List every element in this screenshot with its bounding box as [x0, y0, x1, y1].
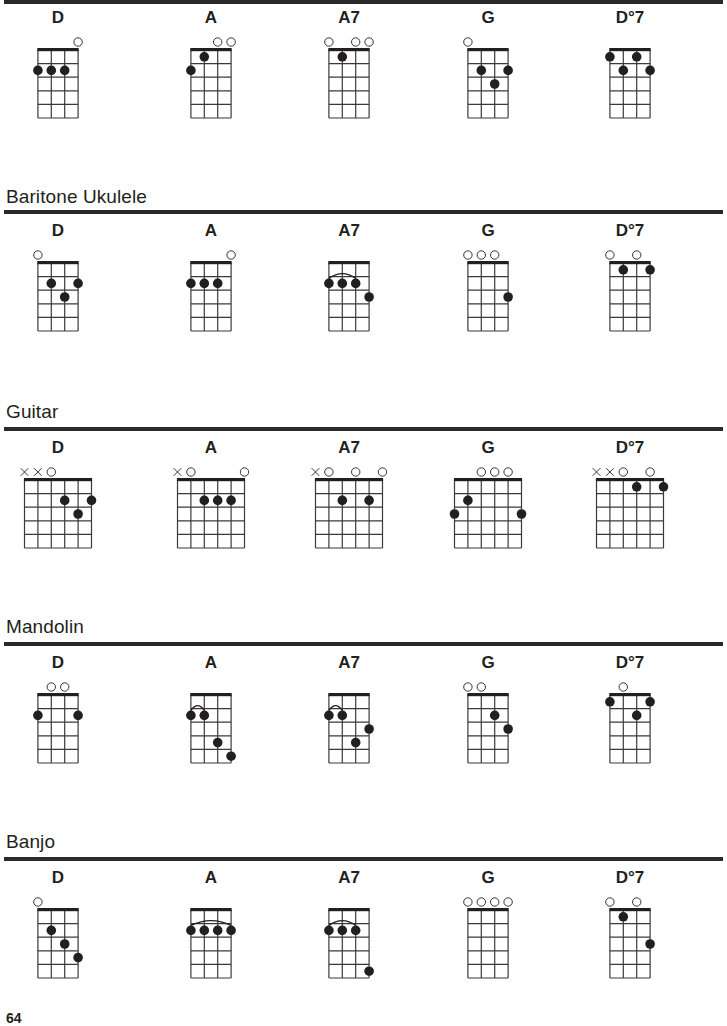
- finger-dot-icon: [226, 926, 236, 936]
- open-string-icon: [227, 38, 235, 46]
- finger-dot-icon: [632, 711, 642, 721]
- section-rule: [4, 210, 723, 214]
- nut: [315, 478, 383, 481]
- finger-dot-icon: [60, 292, 70, 302]
- open-string-icon: [477, 898, 485, 906]
- muted-string-icon: [34, 468, 42, 476]
- finger-dot-icon: [503, 66, 513, 76]
- open-string-icon: [214, 38, 222, 46]
- finger-dot-icon: [73, 711, 83, 721]
- finger-dot-icon: [73, 953, 83, 963]
- chord-diagram: [3, 221, 113, 331]
- nut: [190, 261, 231, 264]
- open-string-icon: [477, 468, 485, 476]
- finger-dot-icon: [338, 711, 348, 721]
- finger-dot-icon: [200, 711, 210, 721]
- finger-dot-icon: [60, 496, 70, 506]
- finger-dot-icon: [47, 926, 57, 936]
- finger-dot-icon: [338, 279, 348, 289]
- nut: [190, 48, 231, 51]
- muted-string-icon: [606, 468, 614, 476]
- finger-dot-icon: [213, 279, 223, 289]
- finger-dot-icon: [605, 697, 615, 707]
- finger-dot-icon: [186, 711, 196, 721]
- finger-dot-icon: [186, 279, 196, 289]
- nut: [328, 48, 369, 51]
- open-string-icon: [74, 38, 82, 46]
- muted-string-icon: [174, 468, 182, 476]
- chord-diagram: [156, 438, 266, 548]
- open-string-icon: [34, 251, 42, 259]
- chord-diagram: [3, 438, 113, 548]
- nut: [467, 908, 508, 911]
- open-string-icon: [378, 468, 386, 476]
- chord-diagram: [156, 8, 266, 118]
- finger-dot-icon: [186, 926, 196, 936]
- nut: [37, 48, 78, 51]
- finger-dot-icon: [645, 265, 655, 275]
- finger-dot-icon: [364, 966, 374, 976]
- finger-dot-icon: [645, 697, 655, 707]
- open-string-icon: [633, 898, 641, 906]
- nut: [37, 693, 78, 696]
- open-string-icon: [646, 468, 654, 476]
- finger-dot-icon: [645, 66, 655, 76]
- chord-diagram: [433, 653, 543, 763]
- nut: [454, 478, 522, 481]
- chord-diagram: [156, 221, 266, 331]
- finger-dot-icon: [364, 724, 374, 734]
- section-title: Banjo: [6, 831, 55, 853]
- nut: [467, 693, 508, 696]
- finger-dot-icon: [200, 279, 210, 289]
- open-string-icon: [619, 683, 627, 691]
- nut: [328, 908, 369, 911]
- finger-dot-icon: [619, 66, 629, 76]
- open-string-icon: [504, 468, 512, 476]
- finger-dot-icon: [632, 52, 642, 62]
- finger-dot-icon: [200, 52, 210, 62]
- open-string-icon: [464, 898, 472, 906]
- finger-dot-icon: [213, 926, 223, 936]
- open-string-icon: [464, 683, 472, 691]
- page-number: 64: [6, 1010, 22, 1026]
- finger-dot-icon: [60, 939, 70, 949]
- chord-diagram: [156, 868, 266, 978]
- open-string-icon: [325, 468, 333, 476]
- finger-dot-icon: [226, 496, 236, 506]
- finger-dot-icon: [351, 738, 361, 748]
- finger-dot-icon: [226, 751, 236, 761]
- chord-diagram: [294, 868, 404, 978]
- finger-dot-icon: [351, 926, 361, 936]
- nut: [177, 478, 245, 481]
- nut: [328, 693, 369, 696]
- finger-dot-icon: [364, 496, 374, 506]
- finger-dot-icon: [503, 292, 513, 302]
- finger-dot-icon: [619, 265, 629, 275]
- nut: [467, 261, 508, 264]
- finger-dot-icon: [490, 711, 500, 721]
- nut: [609, 693, 650, 696]
- finger-dot-icon: [338, 52, 348, 62]
- open-string-icon: [352, 38, 360, 46]
- nut: [190, 908, 231, 911]
- nut: [24, 478, 92, 481]
- muted-string-icon: [21, 468, 29, 476]
- chord-diagram: [294, 221, 404, 331]
- chord-diagram: [433, 8, 543, 118]
- muted-string-icon: [312, 468, 320, 476]
- finger-dot-icon: [490, 79, 500, 89]
- finger-dot-icon: [517, 509, 527, 519]
- open-string-icon: [47, 468, 55, 476]
- chord-diagram: [433, 438, 543, 548]
- finger-dot-icon: [338, 926, 348, 936]
- open-string-icon: [606, 251, 614, 259]
- finger-dot-icon: [338, 496, 348, 506]
- chord-diagram: [575, 438, 685, 548]
- section-rule: [4, 427, 723, 431]
- finger-dot-icon: [213, 738, 223, 748]
- finger-dot-icon: [87, 496, 97, 506]
- finger-dot-icon: [47, 66, 57, 76]
- finger-dot-icon: [73, 279, 83, 289]
- nut: [609, 48, 650, 51]
- chord-diagram: [294, 8, 404, 118]
